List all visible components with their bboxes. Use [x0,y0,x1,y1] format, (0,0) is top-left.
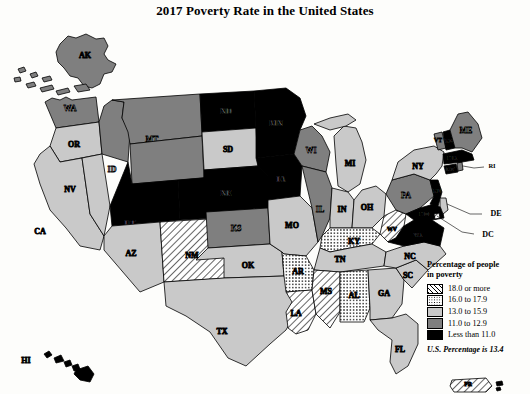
state-label-VA: VA [414,231,423,238]
legend-label: 16.0 to 17.9 [448,295,487,305]
state-label-PA: PA [401,191,411,200]
state-label-ME: ME [460,126,473,135]
state-label-FL: FL [395,345,405,354]
legend-footnote: U.S. Percentage is 13.4 [427,345,530,354]
state-label-SC: SC [403,271,413,280]
state-HI[interactable] [44,351,94,382]
legend-item-16-to-17-9[interactable]: 16.0 to 17.9 [427,295,530,307]
state-label-AL: AL [348,291,359,300]
legend-item-less-than-11[interactable]: Less than 11.0 [427,329,530,341]
state-label-OK: OK [242,261,255,270]
legend-label: 13.0 to 15.9 [448,307,487,317]
state-label-GA: GA [378,289,390,298]
state-label-CA: CA [34,227,46,236]
state-label-IL: IL [316,205,324,214]
legend-item-18-or-more[interactable]: 18.0 or more [427,283,530,295]
poverty-map-figure: 2017 Poverty Rate in the United States A… [0,0,530,394]
legend-item-13-to-15-9[interactable]: 13.0 to 15.9 [427,306,530,318]
state-label-AK: AK [79,51,92,60]
state-label-SD: SD [223,145,233,154]
legend-swatch-dots-icon [427,295,443,306]
state-NE[interactable] [204,166,268,212]
state-label-NE: NE [220,189,231,198]
state-label-WV: WV [387,226,398,232]
state-label-ND: ND [220,107,232,116]
legend-label: 18.0 or more [448,284,490,294]
state-label-PR: PR [464,381,473,387]
state-label-CT: CT [446,166,454,172]
state-label-VT: VT [434,137,442,143]
state-label-NC: NC [404,252,416,261]
state-label-IN: IN [338,205,347,214]
state-label-MA: MA [447,155,457,161]
state-label-AR: AR [292,267,304,276]
state-label-HI: HI [21,356,30,365]
state-label-NJ: NJ [433,188,440,194]
state-label-DC: DC [482,230,494,239]
legend-label: 11.0 to 12.9 [448,319,487,329]
state-label-WA: WA [64,104,77,113]
state-label-OH: OH [361,203,374,212]
state-MS[interactable] [312,270,340,328]
state-label-MS: MS [320,287,333,296]
state-RI[interactable] [457,162,463,171]
legend-label: Less than 11.0 [448,330,495,340]
state-label-IA: IA [277,175,286,184]
state-label-KY: KY [348,237,360,246]
state-label-TN: TN [334,255,345,264]
legend-item-11-to-12-9[interactable]: 11.0 to 12.9 [427,318,530,330]
state-label-NY: NY [412,162,424,171]
state-label-DE: DE [490,209,501,218]
state-label-AZ: AZ [125,249,136,258]
state-AK[interactable] [56,34,116,88]
legend-title-line2: in poverty [427,270,530,280]
legend-swatch-black-icon [427,330,443,341]
state-label-MI: MI [345,159,356,168]
state-label-MO: MO [285,221,299,230]
state-label-MN: MN [269,119,283,128]
state-label-WI: WI [305,146,316,155]
state-PR-islands [496,381,503,391]
state-label-LA: LA [290,309,301,318]
legend-swatch-medium-gray-icon [427,318,443,329]
map-legend: Percentage of people in poverty 18.0 or … [427,260,530,354]
state-label-RI: RI [488,162,496,169]
state-label-KS: KS [231,224,242,233]
state-WY[interactable] [130,136,204,184]
state-label-TX: TX [216,327,227,336]
state-label-MD: MD [419,211,429,217]
state-TX[interactable] [164,276,296,366]
state-label-ID: ID [108,165,117,174]
legend-title-line1: Percentage of people [427,260,530,270]
legend-swatch-hatch-icon [427,284,443,295]
legend-title: Percentage of people in poverty [427,260,530,280]
state-label-NV: NV [64,185,76,194]
legend-swatch-light-gray-icon [427,307,443,318]
state-label-OR: OR [68,140,80,149]
